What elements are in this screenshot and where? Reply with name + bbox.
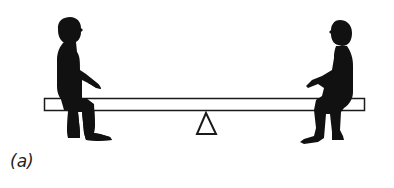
figure-caption: (a) [10, 151, 34, 171]
right-person-silhouette [300, 20, 353, 144]
fulcrum-triangle [197, 113, 216, 134]
seesaw-diagram: (a) [0, 0, 394, 188]
